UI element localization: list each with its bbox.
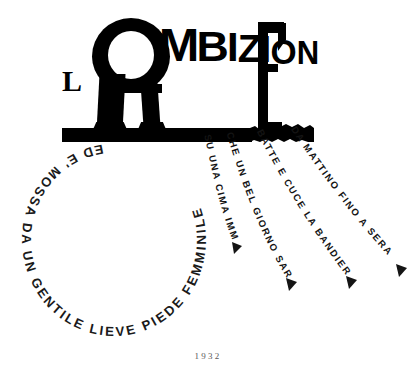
letter-a-counter xyxy=(108,31,154,79)
headline-glyph-b: B xyxy=(197,30,229,64)
headline-letter-l: L xyxy=(62,66,82,96)
headline-glyph-n: N xyxy=(297,40,319,66)
radiating-phrases: SU UNA CIMA IMMACOLATA CHE UN BEL GIORNO… xyxy=(196,126,416,341)
circular-phrase: ED E' MOSSA DA UN GENTILE LIEVE PIEDE FE… xyxy=(10,140,210,345)
ray-2-arrowhead xyxy=(286,278,297,291)
headline-letter-e xyxy=(258,22,286,134)
headline-glyph-m: M xyxy=(159,28,200,64)
letter-e-stem xyxy=(258,22,268,134)
ray-3-arrowhead xyxy=(346,276,357,289)
ray-4-textpath: DA MATTINO FINO A SERA xyxy=(289,124,395,257)
artwork-canvas: L M B I Z I O N xyxy=(0,0,416,373)
year-caption: 1932 xyxy=(0,351,416,361)
headline-word-mbizion: M B I Z I O N xyxy=(160,28,319,88)
ray-4-text: DA MATTINO FINO A SERA xyxy=(289,124,395,257)
circular-phrase-text: ED E' MOSSA DA UN GENTILE LIEVE PIEDE FE… xyxy=(19,142,209,339)
ray-1-arrowhead xyxy=(232,242,242,254)
circular-phrase-textpath: ED E' MOSSA DA UN GENTILE LIEVE PIEDE FE… xyxy=(19,142,209,339)
letter-e-middle-arm xyxy=(258,64,278,72)
letter-e-top-tip xyxy=(278,23,286,51)
ray-4-arrowhead xyxy=(396,264,407,277)
